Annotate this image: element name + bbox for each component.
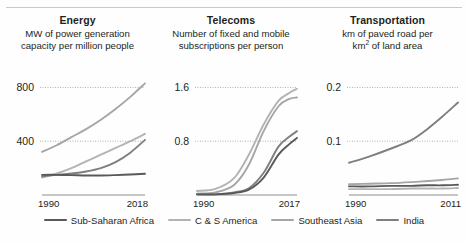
legend-line-swatch [168, 219, 191, 222]
chart-legend: Sub-Saharan AfricaC & S AmericaSoutheast… [0, 207, 468, 233]
series-line [197, 89, 297, 191]
y-tick-label: 0.1 [326, 135, 341, 147]
y-tick-label: 0.8 [174, 135, 189, 147]
plot-transportation: 0.10.219902011 [307, 10, 468, 205]
legend-label: Sub-Saharan Africa [71, 215, 154, 226]
legend-line-swatch [376, 219, 399, 222]
series-line [197, 98, 297, 194]
figure-canvas: Energy MW of power generation capacity p… [0, 0, 468, 243]
panel-row: Energy MW of power generation capacity p… [0, 10, 468, 205]
plot-telecoms: 0.81.619902017 [155, 10, 307, 205]
legend-label: Southeast Asia [298, 215, 362, 226]
series-line [197, 131, 297, 194]
legend-label: India [403, 215, 424, 226]
legend-line-swatch [44, 219, 67, 222]
legend-item[interactable]: Southeast Asia [271, 215, 362, 226]
panel-energy: Energy MW of power generation capacity p… [0, 10, 155, 205]
series-line [349, 188, 458, 189]
legend-item[interactable]: C & S America [168, 215, 257, 226]
series-line [349, 178, 458, 184]
y-tick-label: 0.2 [326, 81, 341, 93]
legend-label: C & S America [195, 215, 257, 226]
series-line [349, 185, 458, 187]
legend-item[interactable]: Sub-Saharan Africa [44, 215, 154, 226]
y-tick-label: 800 [16, 81, 34, 93]
series-line [349, 103, 458, 163]
legend-line-swatch [271, 219, 294, 222]
top-divider-rule [6, 7, 462, 8]
legend-item[interactable]: India [376, 215, 424, 226]
y-tick-label: 1.6 [174, 81, 189, 93]
panel-transportation: Transportation km of paved road perkm2 o… [307, 10, 468, 205]
panel-telecoms: Telecoms Number of fixed and mobile subs… [155, 10, 307, 205]
y-tick-label: 400 [16, 135, 34, 147]
series-line [42, 174, 145, 176]
plot-energy: 40080019902018 [0, 10, 155, 205]
